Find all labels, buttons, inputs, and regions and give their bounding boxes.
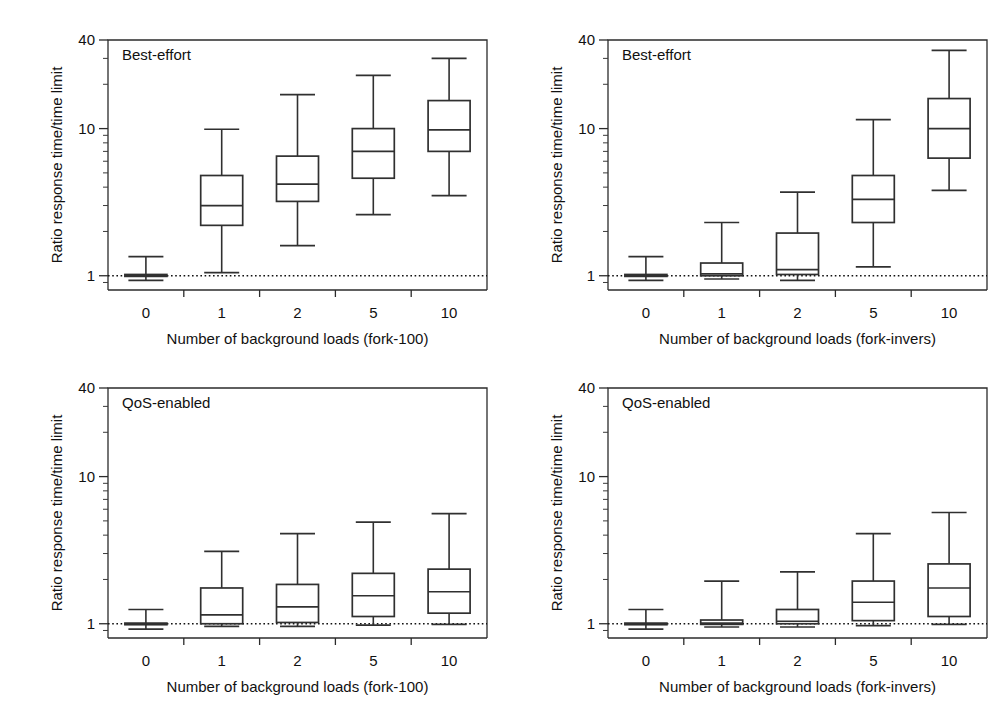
boxplot-1 xyxy=(201,551,243,626)
y-tick-label: 40 xyxy=(578,31,595,48)
x-tick-label: 2 xyxy=(793,304,801,321)
y-axis-title: Ratio response time/time limit xyxy=(548,66,565,264)
box-iqr xyxy=(201,175,243,225)
panel-label: Best-effort xyxy=(122,46,192,63)
box-iqr xyxy=(277,584,319,622)
x-tick-label: 0 xyxy=(642,652,650,669)
panel-label: QoS-enabled xyxy=(622,394,710,411)
boxplot-0 xyxy=(125,609,167,629)
x-tick-label: 2 xyxy=(293,304,301,321)
boxplot-5 xyxy=(852,534,894,626)
x-axis-title: Number of background loads (fork-invers) xyxy=(659,330,936,347)
panel-bottom-left: 11040012510QoS-enabledNumber of backgrou… xyxy=(0,356,502,704)
x-tick-label: 10 xyxy=(941,304,958,321)
box-iqr xyxy=(352,129,394,179)
boxplot-1 xyxy=(701,581,743,627)
plot-area-bottom-left: 11040012510QoS-enabledNumber of backgrou… xyxy=(0,356,502,704)
x-tick-label: 10 xyxy=(941,652,958,669)
box-iqr xyxy=(277,156,319,201)
plot-area-top-right: 11040012510Best-effortNumber of backgrou… xyxy=(500,8,1002,356)
boxplot-10 xyxy=(928,50,970,190)
boxplot-2 xyxy=(777,572,819,627)
x-tick-label: 1 xyxy=(218,304,226,321)
plot-area-top-left: 11040012510Best-effortNumber of backgrou… xyxy=(0,8,502,356)
x-tick-label: 1 xyxy=(718,652,726,669)
y-tick-label: 10 xyxy=(78,468,95,485)
boxplot-5 xyxy=(352,522,394,625)
y-tick-label: 1 xyxy=(587,615,595,632)
y-tick-label: 40 xyxy=(78,379,95,396)
x-tick-label: 5 xyxy=(869,652,877,669)
y-tick-label: 40 xyxy=(578,379,595,396)
box-iqr xyxy=(428,101,470,152)
x-tick-label: 10 xyxy=(441,652,458,669)
boxplot-0 xyxy=(625,257,667,281)
x-axis-title: Number of background loads (fork-100) xyxy=(167,678,429,695)
boxplot-1 xyxy=(201,129,243,272)
boxplot-2 xyxy=(277,534,319,627)
boxplot-1 xyxy=(701,223,743,280)
box-iqr xyxy=(852,581,894,621)
x-tick-label: 5 xyxy=(869,304,877,321)
y-axis-title: Ratio response time/time limit xyxy=(48,414,65,612)
y-tick-label: 10 xyxy=(578,468,595,485)
x-tick-label: 5 xyxy=(369,652,377,669)
x-tick-label: 0 xyxy=(142,652,150,669)
y-axis-title: Ratio response time/time limit xyxy=(48,66,65,264)
boxplot-5 xyxy=(352,75,394,214)
y-axis-title: Ratio response time/time limit xyxy=(548,414,565,612)
boxplot-0 xyxy=(125,257,167,281)
boxplot-10 xyxy=(428,514,470,625)
x-tick-label: 0 xyxy=(642,304,650,321)
y-tick-label: 1 xyxy=(87,615,95,632)
boxplot-0 xyxy=(625,609,667,629)
boxplot-5 xyxy=(852,120,894,267)
x-tick-label: 1 xyxy=(218,652,226,669)
boxplot-10 xyxy=(428,58,470,195)
panel-label: QoS-enabled xyxy=(122,394,210,411)
x-tick-label: 0 xyxy=(142,304,150,321)
box-iqr xyxy=(201,588,243,624)
x-tick-label: 10 xyxy=(441,304,458,321)
y-tick-label: 10 xyxy=(578,120,595,137)
plot-area-bottom-right: 11040012510QoS-enabledNumber of backgrou… xyxy=(500,356,1002,704)
box-iqr xyxy=(777,233,819,274)
box-iqr xyxy=(928,564,970,617)
y-tick-label: 1 xyxy=(587,267,595,284)
y-tick-label: 10 xyxy=(78,120,95,137)
x-tick-label: 2 xyxy=(293,652,301,669)
x-tick-label: 5 xyxy=(369,304,377,321)
panel-label: Best-effort xyxy=(622,46,692,63)
boxplot-10 xyxy=(928,513,970,625)
boxplot-figure: 11040012510Best-effortNumber of backgrou… xyxy=(0,0,1002,713)
x-tick-label: 1 xyxy=(718,304,726,321)
y-tick-label: 40 xyxy=(78,31,95,48)
panel-bottom-right: 11040012510QoS-enabledNumber of backgrou… xyxy=(500,356,1002,704)
panel-top-left: 11040012510Best-effortNumber of backgrou… xyxy=(0,8,502,356)
boxplot-2 xyxy=(277,95,319,246)
y-tick-label: 1 xyxy=(87,267,95,284)
x-axis-title: Number of background loads (fork-invers) xyxy=(659,678,936,695)
panel-top-right: 11040012510Best-effortNumber of backgrou… xyxy=(500,8,1002,356)
x-axis-title: Number of background loads (fork-100) xyxy=(167,330,429,347)
boxplot-2 xyxy=(777,192,819,280)
x-tick-label: 2 xyxy=(793,652,801,669)
